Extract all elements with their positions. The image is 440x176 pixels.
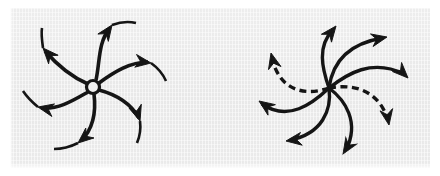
right-arm-5: [285, 88, 329, 147]
right-arm-7: [265, 51, 329, 91]
right-arm-6-arrowhead: [255, 96, 275, 115]
diagrams-canvas: [0, 0, 440, 176]
right-arm-7-arrowhead: [265, 51, 281, 69]
right-arm-1: [329, 31, 388, 88]
left-arm-5: [38, 28, 88, 84]
left-spiral-hub: [87, 81, 100, 94]
figure-root: Left spiral Right spiral Radial spiral a…: [0, 0, 440, 176]
right-arm-5-arrowhead: [285, 133, 302, 148]
left-arm-4: [23, 91, 88, 116]
right-arm-2: [329, 63, 413, 88]
left-spiral-diagram: [23, 21, 166, 149]
right-arm-3: [329, 87, 395, 126]
right-arm-3-arrowhead: [380, 109, 395, 126]
right-arm-0-arrowhead: [321, 22, 341, 42]
right-arm-4: [329, 88, 357, 157]
left-arm-1: [99, 55, 166, 83]
right-arm-4-arrowhead: [338, 137, 357, 157]
left-arm-2: [99, 90, 146, 143]
left-arm-3: [54, 94, 95, 149]
right-arm-2-arrowhead: [393, 63, 413, 83]
right-spiral-diagram: [255, 22, 412, 157]
